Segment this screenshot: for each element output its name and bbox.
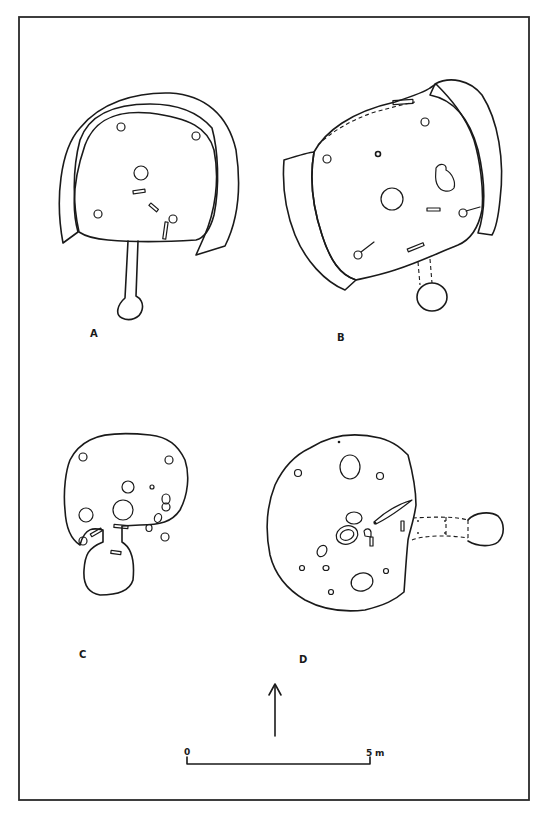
plan-b: B <box>283 80 501 343</box>
plan-a-outer-bank <box>59 93 238 255</box>
plan-d-stakehole <box>417 520 419 522</box>
plan-a-posthole <box>117 123 125 131</box>
plan-a-posthole <box>169 215 177 223</box>
plan-a: A <box>59 93 238 339</box>
plan-a-posthole <box>94 210 102 218</box>
plan-b-pit <box>436 164 455 191</box>
plan-b-posthole <box>421 118 429 126</box>
plan-d-posthole <box>300 566 305 571</box>
plan-b-posthole <box>376 152 381 157</box>
scale-end-label: 5 <box>366 748 372 758</box>
plan-a-slot <box>133 189 145 194</box>
plan-b-wall-footing <box>318 102 415 145</box>
plan-c-posthole <box>150 485 154 489</box>
plan-b-stake-line <box>361 242 374 252</box>
plan-d-passage-edge <box>412 536 468 540</box>
plan-a-posthole <box>192 132 200 140</box>
plan-c-posthole <box>79 453 87 461</box>
plan-b-central-hearth <box>381 188 403 210</box>
plan-d-posthole <box>295 470 302 477</box>
plan-c-floor <box>64 434 187 595</box>
plan-c-pit <box>153 513 163 524</box>
figure-frame <box>19 17 529 800</box>
plan-b-passage-edge <box>418 262 420 285</box>
plan-d-posthole <box>377 473 384 480</box>
plan-c-pit <box>146 525 152 532</box>
plan-b-slot <box>427 208 440 211</box>
plan-b-right-bank <box>430 80 502 235</box>
plan-d-posthole <box>329 590 334 595</box>
plan-b-passage-edge <box>430 259 432 283</box>
plan-d-stakehole <box>338 441 341 444</box>
plan-d-stakehole <box>444 520 446 522</box>
plan-d-slot <box>374 500 412 524</box>
plan-c-posthole <box>161 533 169 541</box>
plan-b-stake-line <box>466 207 480 211</box>
plan-d-stakehole <box>417 532 419 534</box>
scale-start-label: 0 <box>184 747 190 757</box>
plan-a-slot <box>149 203 159 212</box>
plan-c-posthole <box>122 481 134 493</box>
plan-a-passage <box>118 241 143 320</box>
plan-a-floor <box>74 104 217 242</box>
plan-d-slot <box>401 521 404 531</box>
plan-d-hearth-inner <box>339 528 356 542</box>
plan-c-slot <box>111 550 121 554</box>
north-arrow-icon <box>269 684 281 736</box>
plan-d-passage-edge <box>413 517 468 520</box>
plan-b-annex <box>417 283 447 311</box>
plan-c: C <box>64 434 187 660</box>
plan-b-posthole <box>323 155 331 163</box>
plan-d-label: D <box>299 654 307 665</box>
plan-d-pit <box>323 566 329 571</box>
plan-d-annex <box>468 513 503 546</box>
scale-bar: 0 5 m <box>184 747 384 764</box>
plan-b-left-bank <box>283 152 356 290</box>
plan-d-stone <box>364 529 371 537</box>
plan-b-posthole <box>459 209 467 217</box>
plan-a-slot <box>163 222 168 239</box>
plan-c-posthole <box>165 456 173 464</box>
plan-a-central-hearth <box>134 166 148 180</box>
scale-bar-line <box>187 757 370 764</box>
plan-b-slot <box>407 243 424 252</box>
plan-d-pit <box>349 570 375 593</box>
scale-unit-label: m <box>375 748 384 758</box>
plan-d-hearth-outer <box>334 523 361 547</box>
plan-c-central-hearth <box>113 500 133 520</box>
plan-c-posthole <box>79 508 93 522</box>
archaeological-plan-figure: A B <box>0 0 545 817</box>
plan-d-pit <box>315 544 329 559</box>
plan-b-label: B <box>337 332 345 343</box>
plan-d-slot <box>370 537 373 546</box>
plan-d-posthole <box>384 569 389 574</box>
plan-d-pit <box>346 512 362 524</box>
plan-a-label: A <box>90 328 98 339</box>
plan-d-stakehole <box>374 522 377 525</box>
plan-b-floor <box>312 84 482 280</box>
plan-d: D <box>267 435 503 665</box>
plan-c-label: C <box>79 649 86 660</box>
plan-d-pit <box>340 455 360 479</box>
plan-d-stakehole <box>444 532 446 534</box>
